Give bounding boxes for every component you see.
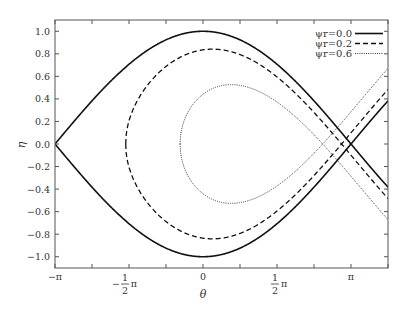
y-tick-label: 0.8 [35, 48, 50, 59]
curve-dashed-upper [126, 49, 388, 198]
curve-solid-lower [55, 101, 388, 257]
x-tick-label: −π [48, 271, 62, 282]
y-axis-ticks: 1.00.80.60.40.20.0−0.2−0.4−0.6−0.8−1.0 [27, 26, 388, 262]
svg-text:2: 2 [122, 285, 128, 296]
x-tick-label: 12π [271, 272, 287, 296]
separatrix-chart: 1.00.80.60.40.20.0−0.2−0.4−0.6−0.8−1.0 −… [0, 0, 402, 312]
x-tick-label: −12π [112, 272, 137, 296]
x-tick-label: 0 [200, 271, 206, 282]
y-tick-label: 0.0 [35, 139, 50, 150]
x-axis-title: θ [200, 288, 207, 301]
curve-dashed-lower [126, 89, 388, 238]
y-tick-label: −0.2 [27, 161, 50, 172]
plot-curves [55, 31, 388, 256]
y-tick-label: 1.0 [35, 26, 50, 37]
y-tick-label: −1.0 [27, 251, 50, 262]
svg-text:π: π [281, 278, 287, 289]
svg-text:1: 1 [272, 272, 278, 283]
svg-text:π: π [131, 278, 137, 289]
svg-text:2: 2 [272, 285, 278, 296]
y-tick-label: 0.6 [35, 71, 50, 82]
y-tick-label: 0.2 [35, 116, 50, 127]
svg-text:−: − [112, 278, 120, 289]
svg-text:1: 1 [122, 272, 128, 283]
y-tick-label: −0.4 [27, 184, 50, 195]
y-tick-label: −0.6 [27, 206, 50, 217]
y-axis-title: η [15, 141, 28, 148]
legend-label-psi-0.6: ψr=0.6 [315, 48, 352, 59]
y-tick-label: 0.4 [35, 93, 50, 104]
x-tick-label: π [348, 271, 354, 282]
legend: ψr=0.0 ψr=0.2 ψr=0.6 [315, 28, 383, 59]
y-tick-label: −0.8 [27, 229, 50, 240]
